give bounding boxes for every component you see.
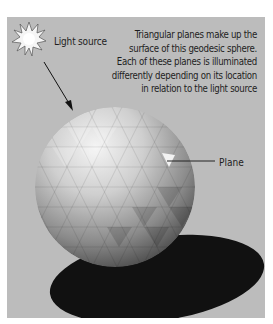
arrowhead-icon <box>65 100 73 111</box>
description-text: Triangular planes make up the surface of… <box>107 28 257 96</box>
plane-label: Plane <box>219 157 244 168</box>
light-source-label: Light source <box>54 36 107 47</box>
sun-icon <box>12 22 46 56</box>
diagram-panel: Light source Triangular planes make up t… <box>7 17 265 318</box>
light-direction-arrow <box>44 62 70 105</box>
